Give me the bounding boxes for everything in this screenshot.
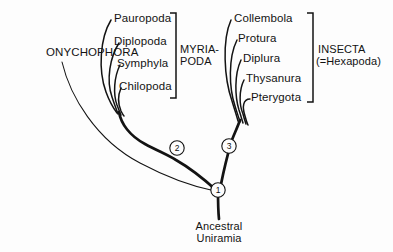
bracket-insecta — [307, 13, 313, 102]
taxon-label-collembola: Collembola — [234, 12, 293, 24]
node-label-1: 1 — [211, 183, 225, 197]
trunk-myriapoda — [119, 112, 216, 190]
root-label-line1: Ancestral — [180, 221, 258, 233]
taxon-label-diplura: Diplura — [243, 52, 280, 64]
group-label-insecta-line1: INSECTA — [318, 44, 366, 56]
taxon-label-pterygota: Pterygota — [251, 91, 301, 103]
cladogram-canvas — [0, 0, 393, 252]
trunk-insecta — [220, 120, 240, 190]
group-label-myriapoda-line1: MYRIA- — [180, 44, 219, 56]
group-label-insecta-line2: (=Hexapoda) — [316, 56, 381, 68]
node-label-3: 3 — [222, 139, 236, 153]
branch-pauropoda — [101, 20, 117, 113]
group-label-myriapoda-line2: PODA — [180, 56, 212, 68]
taxon-label-diplopoda: Diplopoda — [114, 35, 167, 47]
taxon-label-chilopoda: Chilopoda — [119, 80, 172, 92]
root-label-line2: Uniramia — [180, 233, 258, 245]
taxon-label-thysanura: Thysanura — [246, 72, 301, 84]
node-label-2: 2 — [170, 141, 184, 155]
branch-collembola — [225, 20, 238, 121]
taxon-label-protura: Protura — [238, 32, 276, 44]
taxon-label-pauropoda: Pauropoda — [114, 12, 171, 24]
taxon-label-symphyla: Symphyla — [117, 57, 168, 69]
